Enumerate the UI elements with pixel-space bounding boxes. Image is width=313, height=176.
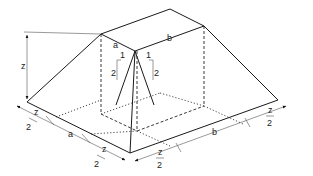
label-slope-rise-left: 2 [111, 68, 116, 78]
label-base-mid-num: z [102, 144, 107, 154]
label-base-front-num: z [158, 147, 163, 157]
hidden-top-projection [101, 106, 204, 131]
edge-right-slope [204, 26, 278, 100]
label-base-front-den: 2 [157, 160, 162, 170]
diagram-canvas: z a b 1 1 2 2 z 2 a z 2 z 2 b z 2 [0, 0, 313, 176]
height-extension-line [24, 32, 101, 34]
slope-bracket-left [117, 60, 121, 80]
frustum-diagram: z a b 1 1 2 2 z 2 a z 2 z 2 b z 2 [0, 0, 313, 176]
label-height-z: z [21, 61, 26, 71]
label-base-left-den: 2 [26, 122, 31, 132]
label-base-right-den: 2 [267, 118, 272, 128]
label-slope-run-left: 1 [120, 50, 125, 60]
label-base-mid-den: 2 [94, 159, 99, 169]
base-dotted-line-4 [137, 131, 170, 146]
base-dim-tick-2 [82, 134, 90, 143]
label-top-a: a [113, 40, 118, 50]
label-slope-run-right: 1 [146, 50, 151, 60]
base-dotted-line-6 [160, 93, 204, 106]
label-top-b: b [167, 33, 172, 43]
slope-line-left [116, 51, 135, 105]
slope-line-right [135, 51, 154, 105]
label-base-a: a [68, 129, 73, 139]
base-dim-tick-1 [46, 116, 54, 125]
base-edge-right [130, 100, 278, 153]
slope-bracket-right [149, 60, 153, 80]
label-base-left-num: z [34, 107, 39, 117]
base-dotted-line-3 [91, 131, 137, 134]
edge-left-slope [27, 34, 101, 102]
label-base-right-num: z [268, 105, 273, 115]
label-slope-rise-right: 2 [154, 68, 159, 78]
base-dotted-line-1 [56, 100, 101, 117]
base-edge-left [27, 102, 130, 153]
label-base-b: b [212, 127, 217, 137]
